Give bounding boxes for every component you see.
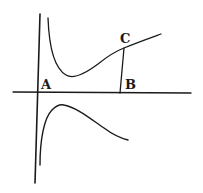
diagram-canvas: A B C bbox=[0, 0, 203, 193]
ordinate-cb-line bbox=[120, 48, 124, 93]
lower-branch-curve bbox=[40, 105, 128, 165]
diagram-figure bbox=[0, 0, 203, 193]
upper-branch-curve bbox=[48, 18, 161, 77]
label-b: B bbox=[125, 78, 136, 91]
label-c: C bbox=[120, 32, 130, 45]
horizontal-axis bbox=[13, 92, 191, 93]
vertical-asymptote bbox=[35, 14, 40, 183]
label-a: A bbox=[41, 78, 51, 91]
